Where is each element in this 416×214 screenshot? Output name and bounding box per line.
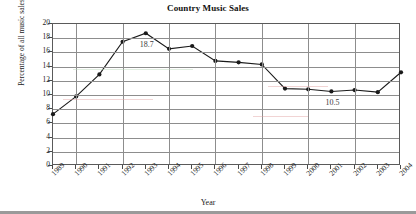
y-axis-tick-mark	[48, 151, 52, 152]
horizontal-gridline	[53, 109, 399, 110]
y-axis-tick-mark	[48, 80, 52, 81]
bottom-border-strip	[0, 211, 416, 214]
y-axis-tick-label: 12	[30, 76, 50, 84]
data-point-marker	[237, 60, 241, 64]
data-point-marker	[376, 90, 380, 94]
y-axis-tick-label: 20	[30, 19, 50, 27]
y-axis-tick-label: 14	[30, 62, 50, 70]
y-axis-tick-label: 2	[30, 147, 50, 155]
vertical-gridline	[355, 24, 356, 164]
vertical-gridline	[262, 24, 263, 164]
y-axis-tick-mark	[48, 137, 52, 138]
y-axis-tick-label: 18	[30, 33, 50, 41]
y-axis-tick-mark	[48, 108, 52, 109]
scan-artifact	[253, 116, 308, 117]
y-axis-tick-label: 8	[30, 104, 50, 112]
horizontal-gridline	[53, 123, 399, 124]
y-axis-label: Percentage of all music sales	[17, 0, 26, 108]
data-point-marker	[329, 89, 333, 93]
vertical-gridline	[169, 24, 170, 164]
vertical-gridline	[123, 24, 124, 164]
y-axis-tick-label: 16	[30, 48, 50, 56]
y-axis-tick-label: 10	[30, 90, 50, 98]
data-point-value-label: 10.5	[325, 98, 339, 107]
x-axis-label: Year	[0, 198, 416, 207]
y-axis-tick-label: 0	[30, 161, 50, 169]
y-axis-tick-mark	[48, 66, 52, 67]
y-axis-tick-mark	[48, 94, 52, 95]
y-axis-tick-mark	[48, 37, 52, 38]
data-point-marker	[97, 72, 101, 76]
y-axis-tick-mark	[48, 122, 52, 123]
vertical-gridline	[76, 24, 77, 164]
scan-artifact	[268, 86, 328, 87]
data-point-marker	[51, 112, 55, 116]
horizontal-gridline	[53, 81, 399, 82]
horizontal-gridline	[53, 52, 399, 53]
chart-screenshot: Country Music Sales Percentage of all mu…	[0, 0, 416, 214]
horizontal-gridline	[53, 95, 399, 96]
scan-artifact	[73, 69, 193, 70]
y-axis-tick-labels: 02468101214161820	[30, 23, 50, 165]
data-point-value-label: 18.7	[140, 40, 154, 49]
horizontal-gridline	[53, 67, 399, 68]
data-point-marker	[399, 70, 403, 74]
y-axis-tick-label: 4	[30, 133, 50, 141]
vertical-gridline	[308, 24, 309, 164]
horizontal-gridline	[53, 38, 399, 39]
horizontal-gridline	[53, 138, 399, 139]
data-point-marker	[283, 87, 287, 91]
data-point-marker	[144, 31, 148, 35]
scan-artifact	[63, 99, 153, 100]
data-line	[53, 33, 401, 114]
data-point-marker	[190, 44, 194, 48]
y-axis-tick-label: 6	[30, 119, 50, 127]
y-axis-tick-mark	[48, 51, 52, 52]
vertical-gridline	[215, 24, 216, 164]
y-axis-tick-mark	[48, 23, 52, 24]
horizontal-gridline	[53, 152, 399, 153]
chart-title: Country Music Sales	[0, 3, 416, 13]
plot-area	[52, 23, 400, 165]
